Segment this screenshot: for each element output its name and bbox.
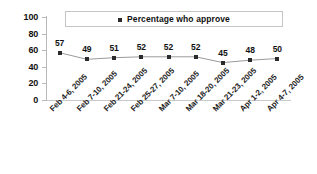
data-point-marker	[275, 57, 279, 61]
data-point-label: 48	[246, 46, 255, 55]
data-point-label: 49	[82, 45, 91, 54]
data-point-label: 57	[55, 39, 64, 48]
data-point-marker	[112, 56, 116, 60]
data-point-label: 52	[137, 43, 146, 52]
data-point-label: 45	[218, 49, 227, 58]
data-point-label: 50	[273, 45, 282, 54]
data-point-marker	[85, 57, 89, 61]
data-point-label: 52	[191, 43, 200, 52]
data-point-label: 52	[164, 43, 173, 52]
data-point-marker	[167, 55, 171, 59]
data-point-marker	[221, 61, 225, 65]
data-point-marker	[58, 51, 62, 55]
data-point-marker	[248, 58, 252, 62]
data-point-marker	[194, 55, 198, 59]
data-point-marker	[139, 55, 143, 59]
data-point-label: 51	[109, 44, 118, 53]
approval-rating-line-chart: 100806040200 Percentage who approve 5749…	[0, 0, 317, 174]
